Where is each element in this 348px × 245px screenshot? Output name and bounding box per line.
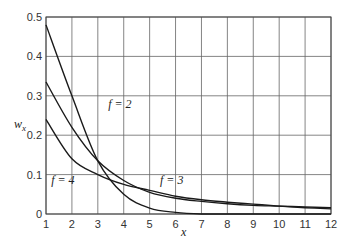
curve-f4 (46, 119, 331, 208)
x-tick-label: 11 (299, 218, 310, 230)
curve-f2 (46, 25, 331, 214)
x-tick-label: 8 (224, 218, 230, 230)
y-axis-label: wx (14, 117, 26, 133)
plot-frame (46, 17, 331, 214)
x-tick-label: 1 (43, 218, 49, 230)
x-tick-label: 2 (69, 218, 75, 230)
y-tick-label: 0.3 (27, 90, 42, 102)
x-tick-label: 4 (121, 218, 127, 230)
x-tick-label: 6 (172, 218, 178, 230)
y-tick-label: 0.2 (27, 129, 42, 141)
y-axis-ticks: 00.10.20.30.40.5 (27, 11, 42, 220)
data-curves (46, 25, 331, 214)
y-tick-label: 0.4 (27, 50, 42, 62)
x-tick-label: 3 (95, 218, 101, 230)
curve-label: f = 3 (160, 173, 183, 187)
x-tick-label: 5 (147, 218, 153, 230)
grid-lines (46, 17, 331, 214)
x-tick-label: 12 (325, 218, 337, 230)
y-tick-label: 0 (36, 208, 42, 220)
curve-label: f = 4 (51, 173, 74, 187)
x-axis-ticks: 123456789101112 (43, 218, 337, 230)
curve-labels: f = 2f = 3f = 4 (51, 97, 183, 188)
y-tick-label: 0.1 (27, 169, 42, 181)
x-tick-label: 10 (273, 218, 285, 230)
x-tick-label: 9 (250, 218, 256, 230)
curve-label: f = 2 (108, 97, 131, 111)
chart: 00.10.20.30.40.5 123456789101112 f = 2f … (0, 0, 348, 245)
x-tick-label: 7 (198, 218, 204, 230)
y-tick-label: 0.5 (27, 11, 42, 23)
curve-f3 (46, 82, 331, 208)
x-axis-label: x (180, 225, 187, 239)
